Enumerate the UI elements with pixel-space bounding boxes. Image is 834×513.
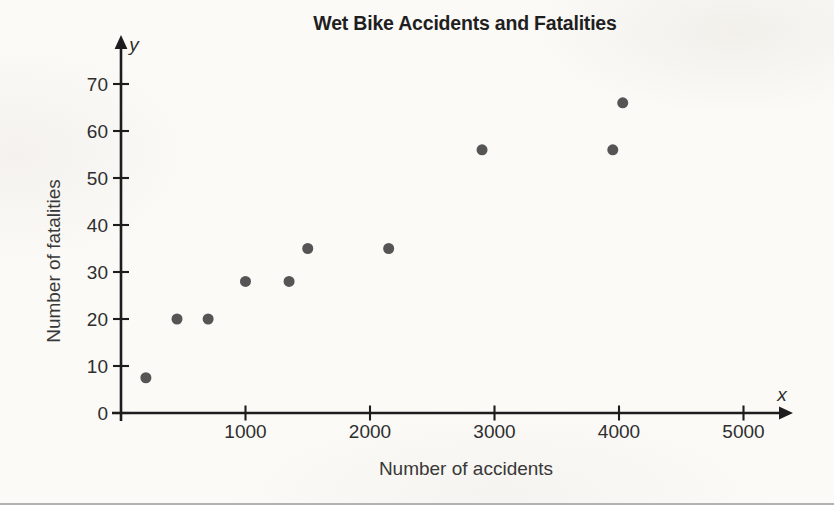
data-point	[302, 243, 313, 254]
x-tick-label: 2000	[349, 421, 391, 442]
data-point	[383, 243, 394, 254]
y-tick-label: 50	[87, 168, 108, 189]
x-tick-label: 5000	[722, 421, 764, 442]
data-point	[203, 314, 214, 325]
y-tick-label: 30	[87, 262, 108, 283]
y-tick-label: 70	[87, 74, 108, 95]
page-margin-strip	[0, 505, 834, 513]
y-axis-arrow-icon	[115, 35, 128, 49]
data-point	[617, 97, 628, 108]
scatter-chart: Wet Bike Accidents and Fatalities Number…	[0, 0, 834, 513]
x-tick-label: 4000	[598, 421, 640, 442]
data-point	[172, 314, 183, 325]
y-tick-label: 0	[97, 403, 108, 424]
y-tick-label: 60	[87, 121, 108, 142]
data-point	[607, 144, 618, 155]
x-tick-label: 3000	[473, 421, 515, 442]
plot-area: 10002000300040005000010203040506070xy	[0, 0, 834, 513]
page: Wet Bike Accidents and Fatalities Number…	[0, 0, 834, 513]
data-point	[284, 276, 295, 287]
x-tick-label: 1000	[224, 421, 266, 442]
x-axis-arrow-icon	[779, 407, 793, 420]
y-tick-label: 20	[87, 309, 108, 330]
data-point	[140, 372, 151, 383]
data-point	[477, 144, 488, 155]
y-tick-label: 40	[87, 215, 108, 236]
data-point	[240, 276, 251, 287]
x-axis-letter: x	[776, 384, 788, 405]
y-axis-letter: y	[127, 34, 140, 55]
y-tick-label: 10	[87, 356, 108, 377]
